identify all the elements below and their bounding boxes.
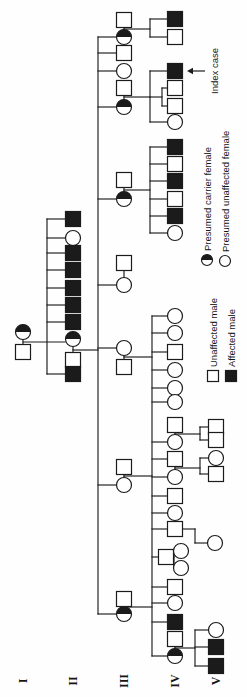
individual-II-square-affected: [66, 367, 81, 382]
pedigree-chart-svg: Index caseIIIIIIIVVUnaffected maleAffect…: [0, 0, 247, 697]
legend-item-3: Presumed unaffected female: [220, 131, 231, 267]
individual-II-square-affected: [66, 315, 81, 330]
individual-III-square-unaffected: [117, 592, 132, 607]
individual-V-circle-unaffected: [209, 451, 224, 466]
individual-III-square-unaffected: [117, 460, 132, 475]
individual-V-square-unaffected: [209, 433, 224, 448]
individual-II-square-affected: [66, 298, 81, 313]
individual-IV-square-unaffected: [168, 81, 183, 96]
individual-III-circle-carrier: [117, 29, 132, 44]
individual-V-square-affected: [209, 640, 224, 655]
individual-III-circle-unaffected: [117, 64, 132, 79]
individual-IV-square-unaffected: [168, 157, 183, 172]
individual-IV-square-unaffected: [168, 418, 183, 433]
individual-III-square-unaffected: [117, 360, 132, 375]
individual-IV-square-unaffected: [159, 550, 174, 565]
individual-IV-square-affected: [168, 174, 183, 189]
legend-item-1: Affected male: [226, 309, 237, 381]
individual-V-square-unaffected: [209, 467, 224, 482]
individual-IV-square-unaffected: [168, 522, 183, 537]
individual-II-circle-unaffected: [66, 231, 81, 246]
individual-IV-square-affected: [168, 209, 183, 224]
individual-IV-circle-unaffected: [168, 226, 183, 241]
individual-II-square-unaffected: [66, 353, 81, 368]
individual-III-circle-unaffected: [117, 478, 132, 493]
individual-IV-circle-unaffected: [168, 381, 183, 396]
individual-III-circle-carrier: [117, 192, 132, 207]
individual-IV-square-unaffected: [168, 30, 183, 45]
generation-label-II: II: [66, 676, 80, 686]
individual-IV-circle-unaffected: [174, 544, 189, 559]
individual-III-square-unaffected: [117, 46, 132, 61]
individual-IV-square-unaffected: [168, 580, 183, 595]
individual-I-square-unaffected: [16, 345, 31, 360]
generation-label-IV: IV: [168, 674, 182, 688]
individual-IV-circle-unaffected: [168, 596, 183, 611]
pedigree-stage: Index caseIIIIIIIVVUnaffected maleAffect…: [0, 0, 247, 697]
individual-IV-square-unaffected: [168, 192, 183, 207]
individual-III-square-unaffected: [117, 81, 132, 96]
generation-label-III: III: [117, 674, 131, 688]
generation-labels: IIIIIIIVV: [16, 674, 223, 688]
individual-V-circle-unaffected: [208, 536, 223, 551]
individual-IV-square-unaffected: [168, 489, 183, 504]
index-case-arrow: Index case: [187, 48, 220, 94]
individual-IV-circle-unaffected: [168, 115, 183, 130]
individual-III-square-unaffected: [117, 256, 132, 271]
index-case-label: Index case: [209, 48, 220, 94]
generation-label-I: I: [16, 678, 30, 683]
individual-IV-square-affected: [168, 12, 183, 27]
legend-label-3: Presumed unaffected female: [220, 131, 231, 252]
legend-label-1: Affected male: [226, 309, 237, 367]
legend-label-0: Unaffected male: [208, 298, 219, 367]
individual-IV-circle-carrier: [168, 649, 183, 664]
individual-V-circle-unaffected: [209, 623, 224, 638]
individual-IV-square-unaffected: [168, 452, 183, 467]
pedigree-figure: Index caseIIIIIIIVVUnaffected maleAffect…: [0, 0, 247, 697]
legend-label-2: Presumed carrier female: [202, 147, 213, 251]
individual-II-square-affected: [66, 281, 81, 296]
individual-IV-square-affected: [168, 140, 183, 155]
individual-IV-square-unaffected: [168, 345, 183, 360]
individual-I-circle-carrier: [16, 325, 31, 340]
legend-item-0: Unaffected male: [208, 298, 219, 382]
individual-IV-square-unaffected: [168, 632, 183, 647]
individual-IV-circle-unaffected: [168, 326, 183, 341]
individual-IV-square-affected: [168, 615, 183, 630]
legend-item-2: Presumed carrier female: [202, 147, 213, 266]
legend: Unaffected maleAffected malePresumed car…: [202, 131, 237, 382]
individual-IV-square-unaffected: [168, 99, 183, 114]
individual-IV-circle-unaffected: [168, 435, 183, 450]
individual-II-square-affected: [66, 246, 81, 261]
individual-IV-circle-unaffected: [174, 561, 189, 576]
individual-IV-circle-unaffected: [168, 470, 183, 485]
individual-II-square-affected: [66, 263, 81, 278]
individual-IV-circle-unaffected: [168, 363, 183, 378]
individual-IV-circle-unaffected: [168, 506, 183, 521]
individual-IV-circle-unaffected: [168, 395, 183, 410]
individual-III-square-unaffected: [117, 13, 132, 28]
individual-III-circle-carrier: [117, 99, 132, 114]
individual-III-circle-carrier: [117, 607, 132, 622]
generation-label-V: V: [209, 676, 223, 685]
individual-III-circle-unaffected: [117, 341, 132, 356]
individual-IV-circle-unaffected: [168, 309, 183, 324]
individual-II-square-affected: [66, 212, 81, 227]
individual-II-circle-carrier: [66, 331, 81, 346]
individual-III-square-unaffected: [117, 173, 132, 188]
individual-IV-square-affected: [168, 64, 183, 79]
individual-V-square-affected: [209, 659, 224, 674]
individual-III-circle-unaffected: [117, 278, 132, 293]
